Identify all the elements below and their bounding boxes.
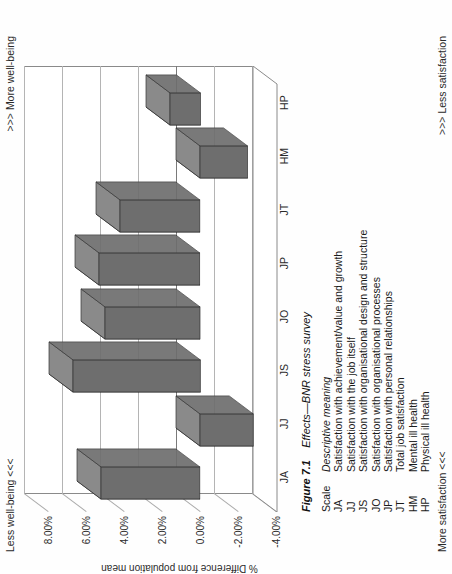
bar-jt xyxy=(94,172,210,234)
category-label-ja: JA xyxy=(278,471,290,483)
legend-meaning: Mental ill health xyxy=(407,230,419,472)
legend-abbr: HP xyxy=(419,472,431,512)
category-axis: JAJJJSJOJPJTHMHP xyxy=(278,66,294,512)
annotation-more-satisfaction: More satisfaction <<< xyxy=(436,451,448,552)
legend-row: JOSatisfaction with organisational proce… xyxy=(370,230,382,512)
legend-meaning: Satisfaction with organisational design … xyxy=(357,230,369,472)
legend-meaning: Satisfaction with personal relationships xyxy=(382,230,394,472)
legend-abbr: JJ xyxy=(345,472,357,512)
bar-ja xyxy=(75,439,210,501)
legend-row: JJSatisfaction with the job itself xyxy=(345,230,357,512)
legend-meaning: Satisfaction with organisational process… xyxy=(370,230,382,472)
legend-abbr: JP xyxy=(382,472,394,512)
bar-js xyxy=(47,332,210,394)
category-label-js: JS xyxy=(278,364,290,376)
scale-legend: Scale Descriptive meaning JASatisfaction… xyxy=(320,52,432,512)
legend-meaning: Total job satisfaction xyxy=(394,230,406,472)
figure-caption-text: Effects—BNR stress survey xyxy=(300,312,312,448)
legend-row: JASatisfaction with achievement/value an… xyxy=(332,230,344,512)
legend-abbr: JS xyxy=(357,472,369,512)
satisfaction-annotation-row: More satisfaction <<< >>> Less satisfact… xyxy=(432,0,448,570)
legend-table: Scale Descriptive meaning JASatisfaction… xyxy=(320,230,432,512)
category-label-jt: JT xyxy=(278,204,290,216)
legend-meaning: Satisfaction with the job itself xyxy=(345,230,357,472)
annotation-less-satisfaction: >>> Less satisfaction xyxy=(436,36,448,135)
legend-meaning: Physical ill health xyxy=(419,230,431,472)
legend-row: JSSatisfaction with organisational desig… xyxy=(357,230,369,512)
bar-hm xyxy=(174,118,258,180)
legend-body: JASatisfaction with achievement/value an… xyxy=(332,230,431,512)
depth-tick xyxy=(214,493,239,512)
category-label-jp: JP xyxy=(278,257,290,269)
value-axis-title: % Difference from population mean xyxy=(80,563,280,574)
figure-caption: Figure 7.1 Effects—BNR stress survey xyxy=(300,66,312,512)
legend-row: JTTotal job satisfaction xyxy=(394,230,406,512)
legend-header-scale: Scale xyxy=(320,472,332,512)
category-label-hp: HP xyxy=(278,95,290,110)
legend-abbr: JA xyxy=(332,472,344,512)
figure-number: Figure 7.1 xyxy=(300,460,312,512)
value-tick-label: 8.00% xyxy=(43,516,54,570)
legend-row: HMMental ill health xyxy=(407,230,419,512)
bar-hp xyxy=(144,65,210,127)
category-label-jo: JO xyxy=(278,310,290,323)
bar-jp xyxy=(73,225,210,287)
annotation-less-well-being: Less well-being <<< xyxy=(4,458,16,552)
plot-area xyxy=(24,66,276,512)
gridline xyxy=(62,66,63,494)
legend-abbr: HM xyxy=(407,472,419,512)
legend-abbr: JO xyxy=(370,472,382,512)
legend-row: HPPhysical ill health xyxy=(419,230,431,512)
legend-meaning: Satisfaction with achievement/value and … xyxy=(332,230,344,472)
annotation-more-well-being: >>> More well-being xyxy=(4,36,16,131)
legend-row: JPSatisfaction with personal relationshi… xyxy=(382,230,394,512)
bar-jj xyxy=(174,386,263,448)
depth-tick xyxy=(24,493,49,512)
category-label-jj: JJ xyxy=(278,418,290,429)
category-label-hm: HM xyxy=(278,148,290,164)
gridline xyxy=(24,66,25,494)
legend-header-descriptive: Descriptive meaning xyxy=(320,230,332,472)
legend-header-row: Scale Descriptive meaning xyxy=(320,230,332,512)
legend-abbr: JT xyxy=(394,472,406,512)
value-axis: 8.00%6.00%4.00%2.00%0.00%-2.00%-4.00% % … xyxy=(24,516,276,572)
well-being-annotation-row: Less well-being <<< >>> More well-being xyxy=(4,0,20,570)
bar-jo xyxy=(79,279,210,341)
